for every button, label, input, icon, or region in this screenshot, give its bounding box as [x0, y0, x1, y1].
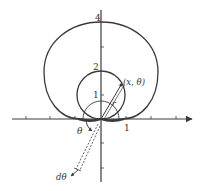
x-tick-label-1: 1 [124, 123, 130, 133]
y-axis [101, 10, 104, 182]
radius-label: r [112, 99, 117, 108]
y-tick-label-1: 1 [93, 90, 99, 100]
theta-label: θ [77, 126, 83, 136]
y-tick-label-2: 2 [93, 62, 99, 72]
polar-diagram: 4 2 1 1 (x, θ) r θ dθ [0, 0, 200, 191]
dtheta-label: dθ [56, 172, 67, 182]
y-tick-label-4: 4 [95, 13, 101, 23]
point-label: (x, θ) [123, 77, 145, 87]
dtheta-wedge [71, 124, 100, 176]
